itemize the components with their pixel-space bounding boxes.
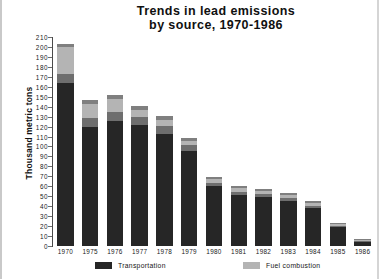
bar-segment [57, 47, 74, 74]
x-tick-label: 1977 [127, 248, 152, 255]
y-tick-label: 30 [24, 213, 48, 220]
chart-title-line-1: Trends in lead emissions [86, 4, 346, 18]
y-tick-label: 130 [24, 113, 48, 120]
bar-segment [131, 110, 148, 117]
bar-segment [206, 186, 223, 246]
y-tick-mark [48, 146, 52, 147]
bar-segment [156, 126, 173, 134]
chart-legend: TransportationFuel combustion [0, 262, 379, 276]
bar-column[interactable] [82, 100, 99, 246]
chart-title: Trends in lead emissions by source, 1970… [86, 4, 346, 32]
x-axis-tick-labels: 1970197519761977197819791980198119821983… [53, 248, 375, 260]
y-tick-label: 180 [24, 63, 48, 70]
bar-segment [280, 201, 297, 246]
bar-segment [131, 125, 148, 246]
y-tick-label: 70 [24, 173, 48, 180]
bar-column[interactable] [57, 44, 74, 246]
y-tick-label: 50 [24, 193, 48, 200]
y-tick-mark [48, 87, 52, 88]
y-tick-mark [48, 206, 52, 207]
y-tick-label: 0 [24, 243, 48, 250]
y-tick-label: 170 [24, 73, 48, 80]
bar-column[interactable] [206, 177, 223, 246]
x-tick-label: 1985 [325, 248, 350, 255]
plot-area [53, 37, 375, 246]
bar-segment [181, 151, 198, 246]
x-tick-label: 1976 [103, 248, 128, 255]
y-tick-label: 110 [24, 133, 48, 140]
y-tick-label: 100 [24, 143, 48, 150]
y-tick-mark [48, 67, 52, 68]
y-tick-mark [48, 117, 52, 118]
bar-segment [82, 104, 99, 118]
y-tick-mark [48, 186, 52, 187]
y-tick-mark [48, 176, 52, 177]
y-tick-mark [48, 47, 52, 48]
chart-root: Trends in lead emissions by source, 1970… [0, 0, 379, 279]
bar-column[interactable] [181, 138, 198, 246]
bar-segment [156, 134, 173, 246]
bar-column[interactable] [131, 106, 148, 246]
y-tick-label: 200 [24, 43, 48, 50]
y-tick-mark [48, 216, 52, 217]
bar-segment [57, 74, 74, 83]
bar-column[interactable] [156, 116, 173, 246]
legend-swatch [95, 262, 112, 269]
bar-segment [330, 227, 347, 246]
legend-swatch [243, 262, 260, 269]
y-tick-label: 140 [24, 103, 48, 110]
bar-segment [131, 117, 148, 125]
y-tick-mark [48, 137, 52, 138]
y-tick-mark [48, 37, 52, 38]
y-tick-label: 60 [24, 183, 48, 190]
y-tick-label: 160 [24, 83, 48, 90]
bar-segment [231, 195, 248, 246]
legend-item[interactable]: Fuel combustion [243, 262, 320, 269]
bar-column[interactable] [330, 223, 347, 246]
y-tick-mark [48, 156, 52, 157]
chart-title-line-2: by source, 1970-1986 [86, 18, 346, 32]
x-tick-label: 1978 [152, 248, 177, 255]
x-tick-label: 1984 [301, 248, 326, 255]
y-tick-mark [48, 246, 52, 247]
bar-segment [82, 118, 99, 127]
bar-segment [305, 208, 322, 246]
bar-column[interactable] [354, 239, 371, 246]
y-tick-label: 150 [24, 93, 48, 100]
legend-label: Fuel combustion [266, 262, 320, 269]
bar-column[interactable] [305, 201, 322, 246]
legend-item[interactable]: Transportation [95, 262, 166, 269]
bar-column[interactable] [280, 193, 297, 246]
y-tick-label: 190 [24, 53, 48, 60]
x-tick-label: 1970 [53, 248, 78, 255]
bar-column[interactable] [107, 95, 124, 246]
y-tick-mark [48, 57, 52, 58]
y-tick-label: 120 [24, 123, 48, 130]
y-tick-label: 80 [24, 163, 48, 170]
y-tick-mark [48, 77, 52, 78]
y-axis-tick-labels: 0102030405060708090100110120130140150160… [22, 37, 48, 246]
y-tick-mark [48, 236, 52, 237]
x-tick-label: 1981 [226, 248, 251, 255]
bar-segment [57, 83, 74, 246]
x-tick-label: 1986 [350, 248, 375, 255]
y-tick-label: 90 [24, 153, 48, 160]
y-tick-label: 10 [24, 233, 48, 240]
bar-group [53, 37, 375, 246]
x-tick-label: 1980 [202, 248, 227, 255]
y-tick-label: 40 [24, 203, 48, 210]
x-tick-label: 1983 [276, 248, 301, 255]
legend-label: Transportation [118, 262, 166, 269]
y-tick-mark [48, 107, 52, 108]
bar-column[interactable] [231, 186, 248, 246]
bar-segment [354, 242, 371, 246]
bar-segment [107, 112, 124, 121]
bar-segment [107, 99, 124, 112]
y-tick-mark [48, 166, 52, 167]
y-tick-mark [48, 127, 52, 128]
bar-segment [255, 197, 272, 246]
bar-column[interactable] [255, 189, 272, 246]
x-tick-label: 1979 [177, 248, 202, 255]
y-tick-mark [48, 196, 52, 197]
bar-segment [82, 127, 99, 246]
